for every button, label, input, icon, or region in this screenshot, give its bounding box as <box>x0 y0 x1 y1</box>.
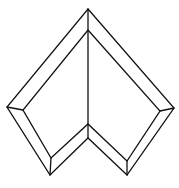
bevel-edge <box>7 107 23 110</box>
bevel-edge <box>50 158 51 175</box>
arrowhead-diagram <box>0 0 179 188</box>
outer-outline <box>7 9 174 175</box>
